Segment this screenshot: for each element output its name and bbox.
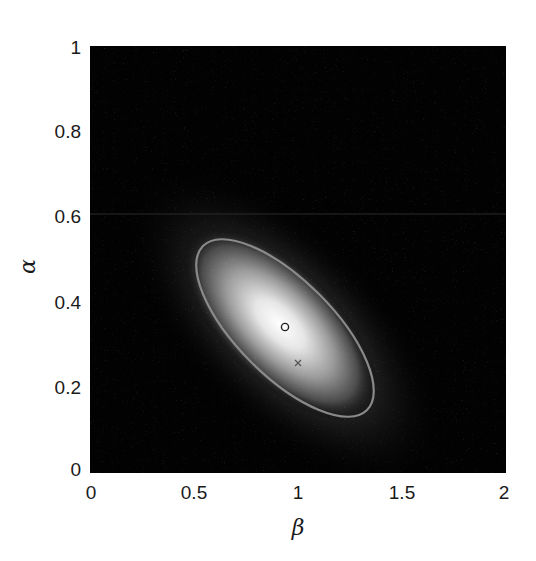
sample-noise (90, 46, 506, 473)
y-tick-label: 0.2 (55, 377, 81, 399)
x-tick-label: 2 (499, 482, 510, 504)
y-tick-label: 1 (70, 37, 81, 59)
x-tick-label: 0 (86, 482, 97, 504)
y-tick-label: 0.8 (55, 121, 81, 143)
heatmap-plot-area (90, 46, 506, 473)
x-tick-label: 0.5 (181, 482, 207, 504)
y-axis-label: α (15, 259, 40, 274)
y-tick-label: 0.6 (55, 206, 81, 228)
y-tick-label: 0 (70, 459, 81, 481)
x-tick-label: 1.5 (389, 482, 415, 504)
y-tick-label: 0.4 (55, 292, 81, 314)
x-tick-label: 1 (293, 482, 304, 504)
density-heatmap (90, 46, 506, 473)
x-axis-label: β (292, 515, 305, 540)
